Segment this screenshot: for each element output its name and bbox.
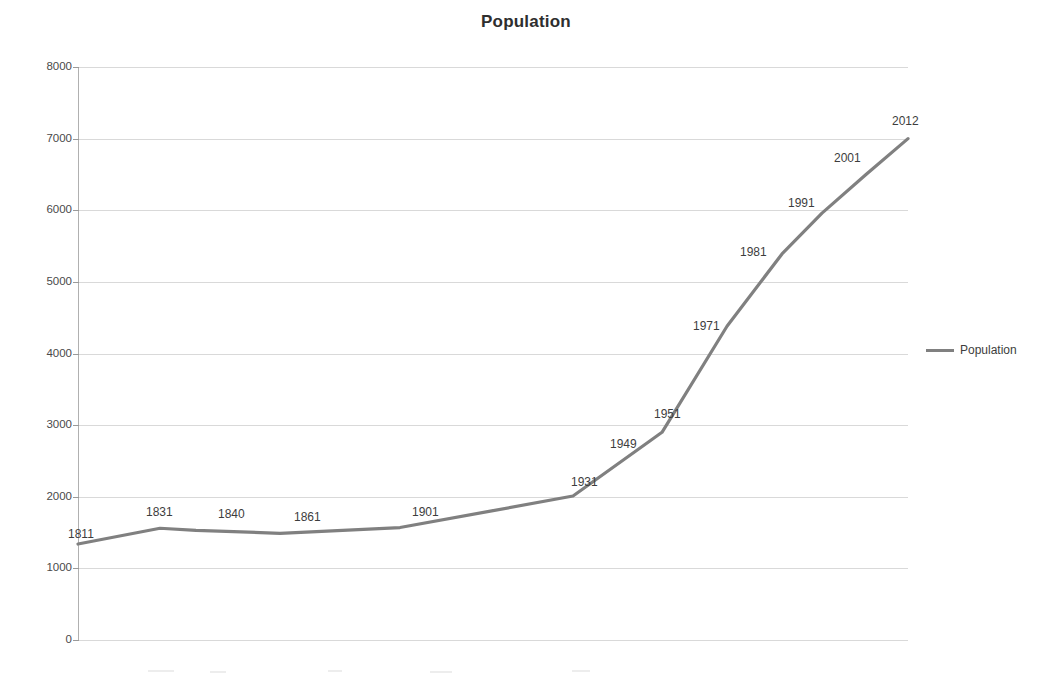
point-label-1831: 1831 [146, 506, 173, 518]
point-label-2012: 2012 [892, 115, 919, 127]
chart-legend: Population [926, 344, 1017, 356]
point-label-1811: 1811 [68, 528, 94, 540]
point-label-1931: 1931 [571, 476, 598, 488]
point-label-1861: 1861 [294, 511, 321, 523]
point-label-1971: 1971 [693, 320, 720, 332]
series-line-population [0, 0, 1052, 679]
scan-artifact-2 [210, 671, 226, 673]
legend-line-swatch [926, 349, 954, 352]
scan-artifact-1 [148, 670, 174, 672]
scan-artifact-3 [328, 670, 342, 672]
legend-label-population: Population [960, 344, 1017, 356]
point-label-1840: 1840 [218, 508, 245, 520]
scan-artifact-5 [572, 670, 590, 672]
point-label-1981: 1981 [740, 246, 767, 258]
point-label-1949: 1949 [610, 438, 637, 450]
point-label-1901: 1901 [412, 506, 439, 518]
point-label-1991: 1991 [788, 197, 815, 209]
scan-artifact-4 [430, 671, 452, 673]
population-line-chart: Population 8000 7000 6000 5000 4000 3000… [0, 0, 1052, 679]
point-label-2001: 2001 [834, 152, 861, 164]
point-label-1951: 1951 [654, 408, 681, 420]
